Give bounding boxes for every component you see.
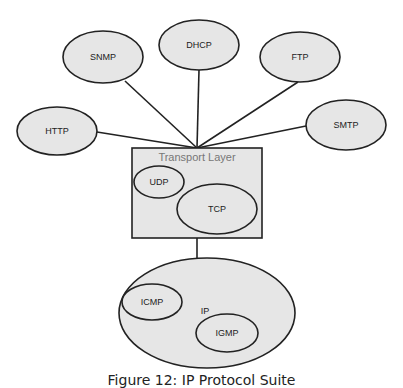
dhcp-link [197, 70, 199, 148]
tcp-label: TCP [208, 204, 226, 214]
app-protocol-http: HTTP [17, 107, 97, 155]
ip-protocol-igmp: IGMP [196, 314, 258, 352]
application-protocols: SNMPDHCPFTPHTTPSMTP [17, 20, 386, 155]
app-protocol-dhcp: DHCP [159, 20, 239, 70]
igmp-label: IGMP [215, 328, 238, 338]
udp-label: UDP [149, 177, 168, 187]
ip-layer-label: IP [201, 306, 210, 316]
http-label: HTTP [45, 126, 69, 136]
figure-caption: Figure 12: IP Protocol Suite [0, 372, 403, 388]
transport-protocol-udp: UDP [134, 166, 184, 198]
app-protocol-ftp: FTP [260, 32, 340, 82]
transport-layer-label: Transport Layer [158, 151, 236, 163]
connection-lines [97, 70, 306, 148]
icmp-label: ICMP [141, 297, 164, 307]
app-protocol-smtp: SMTP [306, 100, 386, 150]
snmp-label: SNMP [90, 52, 116, 62]
dhcp-label: DHCP [186, 40, 212, 50]
smtp-label: SMTP [333, 120, 358, 130]
ip-protocol-icmp: ICMP [122, 284, 182, 320]
app-protocol-snmp: SNMP [63, 31, 143, 83]
transport-protocol-tcp: TCP [177, 184, 257, 234]
ftp-label: FTP [292, 52, 309, 62]
